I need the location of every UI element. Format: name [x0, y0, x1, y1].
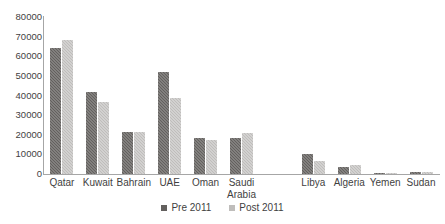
y-axis-tick-label: 30000 — [2, 110, 42, 120]
legend-label: Post 2011 — [239, 203, 283, 213]
legend-item[interactable]: Post 2011 — [229, 203, 283, 213]
legend-item[interactable]: Pre 2011 — [161, 203, 211, 213]
bar-pre-2011 — [194, 138, 205, 174]
bar-post-2011 — [62, 40, 73, 174]
chart-legend: Pre 2011Post 2011 — [0, 203, 445, 213]
legend-label: Pre 2011 — [171, 203, 211, 213]
bar-group — [374, 17, 397, 174]
bar-group — [230, 17, 253, 174]
bar-post-2011 — [134, 132, 145, 174]
y-axis-tick-labels: 8000070000600005000040000300002000010000… — [0, 0, 42, 224]
x-axis-label: Sudan — [390, 177, 445, 189]
y-axis-tick-label: 80000 — [2, 12, 42, 22]
bar-group — [194, 17, 217, 174]
y-axis-tick-label: 70000 — [2, 32, 42, 42]
bar-pre-2011 — [50, 48, 61, 174]
bar-post-2011 — [314, 161, 325, 174]
bar-post-2011 — [422, 172, 433, 174]
bar-pre-2011 — [374, 173, 385, 174]
bar-post-2011 — [350, 165, 361, 174]
bar-pre-2011 — [338, 167, 349, 174]
y-axis-tick-label: 60000 — [2, 52, 42, 62]
legend-swatch-icon — [229, 205, 235, 211]
bar-post-2011 — [242, 133, 253, 174]
y-axis-tick-label: 50000 — [2, 71, 42, 81]
bar-pre-2011 — [410, 172, 421, 174]
y-axis-tick-label: 20000 — [2, 130, 42, 140]
bar-post-2011 — [206, 140, 217, 174]
bar-group — [86, 17, 109, 174]
bar-post-2011 — [98, 102, 109, 174]
bar-pre-2011 — [302, 154, 313, 174]
bar-post-2011 — [386, 173, 397, 174]
x-axis-label: Saudi Arabia — [211, 177, 273, 201]
bar-group — [158, 17, 181, 174]
y-axis-tick-label: 40000 — [2, 91, 42, 101]
bar-group — [338, 17, 361, 174]
bar-group — [50, 17, 73, 174]
bar-group — [302, 17, 325, 174]
bar-pre-2011 — [230, 138, 241, 174]
bar-chart: 8000070000600005000040000300002000010000… — [0, 0, 445, 224]
y-axis-tick-label: 10000 — [2, 150, 42, 160]
bar-pre-2011 — [158, 72, 169, 174]
plot-area — [44, 17, 439, 174]
bar-pre-2011 — [86, 92, 97, 174]
bar-post-2011 — [170, 98, 181, 174]
x-axis-line — [44, 174, 440, 175]
legend-swatch-icon — [161, 205, 167, 211]
bar-group — [266, 17, 289, 174]
bar-pre-2011 — [122, 132, 133, 174]
bar-group — [410, 17, 433, 174]
bar-group — [122, 17, 145, 174]
